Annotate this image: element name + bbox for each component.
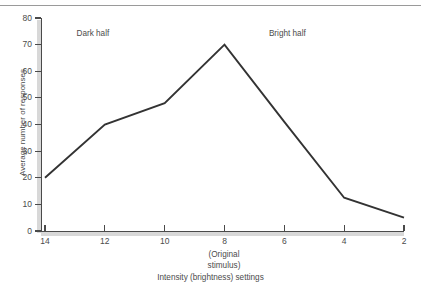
y-axis-title: Average number of responses xyxy=(18,43,27,203)
x-axis-origin-note: (Original stimulus) xyxy=(184,250,264,271)
x-axis-origin-note-line1: (Original xyxy=(184,250,264,261)
chart-figure: 01020304050607080 1412108642 Dark half B… xyxy=(0,0,421,290)
data-series-line xyxy=(0,0,421,290)
plot-area: 01020304050607080 1412108642 Dark half B… xyxy=(0,0,421,290)
dark-half-label: Dark half xyxy=(76,29,109,38)
x-axis-title: Intensity (brightness) settings xyxy=(0,273,421,283)
bright-half-label: Bright half xyxy=(269,29,306,38)
x-axis-origin-note-line2: stimulus) xyxy=(184,261,264,272)
